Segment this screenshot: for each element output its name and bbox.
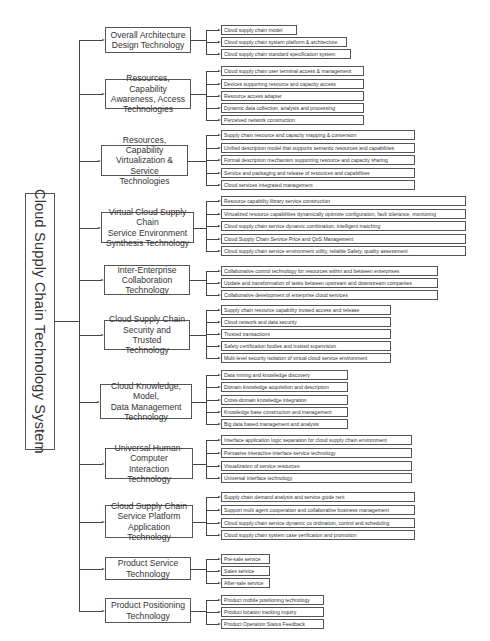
leaf-node: Cloud Supply Chain Service Price and QoS… [221,234,466,244]
category-label-line: Inter-Enterprise [117,265,176,275]
root-title: Cloud Supply Chain Technology System [32,189,48,454]
category-label: Inter-EnterpriseCollaborationTechnology [117,265,176,296]
leaf-node: Safety certification bodies and trusted … [221,341,391,351]
category-label: Cloud Knowledge, Model,Data ManagementTe… [104,381,188,422]
leaf-node: Virtualized resource capabilities dynami… [221,209,466,219]
category-label-line: Resources, Capability [105,135,184,156]
category-label: Cloud Supply ChainSecurity and TrustedTe… [108,314,186,355]
category-label-line: Resources, Capability [109,73,187,94]
trunk-branch-connector [80,40,102,41]
leaf-node: Product mobile positioning technology [221,595,324,605]
category-label-line: Overall Architecture [111,30,186,40]
category-label-line: Technologies [105,176,184,186]
leaf-node: After-sale service [221,578,270,588]
leaf-node: Domain knowledge acquisition and descrip… [221,382,348,392]
leaf-node: Collaborative development of enterprise … [221,290,438,300]
category-label-line: Security and Trusted [108,325,186,346]
category-bracket-connector [188,161,206,162]
trunk-branch-connector [80,335,101,336]
category-label-line: Universal Human- [109,443,189,453]
category-label-line: Data Management [104,402,188,412]
leaf-node: Cross-domain knowledge integration [221,395,348,405]
category-bracket-connector [191,40,206,41]
category-label: Product ServiceTechnology [118,558,179,579]
category-label-line: Cloud Supply Chain [108,314,186,324]
category-bracket-connector [192,402,206,403]
category-label-line: Technology [111,611,185,621]
leaf-node: Supply chain resource and capacity mappi… [221,130,415,140]
category-label-line: Product Service [118,558,179,568]
leaf-node: Cloud supply chain model [221,25,297,35]
root-connector [55,321,79,322]
leaf-node: Support multi agent cooperation and coll… [221,505,415,515]
category-label-line: Cloud Supply Chain [109,501,189,511]
leaf-node: Trusted transactions [221,329,391,339]
leaf-node: Formal description mechanism supporting … [221,155,415,165]
category-label: Universal Human-Computer InteractionTech… [109,443,189,484]
leaf-node: Sales service [221,566,270,576]
category-bracket-connector [193,464,206,465]
category-node: Virtual Cloud Supply ChainService Enviro… [101,212,194,243]
leaf-node: Update and transformation of tasks betwe… [221,278,438,288]
trunk-branch-connector [80,280,101,281]
category-label-line: Technology [108,345,186,355]
category-label-line: Design Technology [111,40,186,50]
category-node: Resources, CapabilityVirtualization & Se… [101,145,188,176]
leaf-node: Cloud supply chain service dynamic combi… [221,221,466,231]
category-label-line: Technology [109,474,189,484]
category-label-line: Virtualization & Service [105,155,184,176]
category-label: Cloud Supply ChainService PlatformApplic… [109,501,189,542]
category-node: Product ServiceTechnology [105,557,191,580]
leaf-node: Interface application logic separation f… [221,435,412,445]
leaf-node: Devices supporting resource and capacity… [221,79,364,89]
leaf-node: Unified description model that supports … [221,143,415,153]
category-label: Product PositioningTechnology [111,600,185,621]
bracket-line [206,497,207,536]
trunk-branch-connector [80,464,102,465]
category-label-line: Synthesis Technology [105,238,190,248]
category-node: Overall ArchitectureDesign Technology [105,27,191,53]
category-bracket-connector [190,280,206,281]
category-label-line: Technology [104,412,188,422]
trunk-branch-connector [80,161,98,162]
category-label: Resources, CapabilityVirtualization & Se… [105,135,184,186]
category-node: Product PositioningTechnology [105,598,191,623]
category-node: Cloud Supply ChainService PlatformApplic… [105,505,193,538]
trunk-branch-connector [80,94,102,95]
leaf-node: Cloud supply chain standard specificatio… [221,49,351,59]
leaf-node: Pre-sale service [221,554,270,564]
leaf-node: Cloud network and data security [221,317,391,327]
category-label: Resources, CapabilityAwareness, AccessTe… [109,73,187,114]
leaf-node: Supply chain demand analysis and service… [221,492,415,502]
category-label-line: Service Platform [109,511,189,521]
category-label-line: Cloud Knowledge, Model, [104,381,188,402]
leaf-node: Knowledge base construction and manageme… [221,407,348,417]
category-label-line: Virtual Cloud Supply Chain [105,207,190,228]
category-node: Universal Human-Computer InteractionTech… [105,448,193,479]
category-node: Inter-EnterpriseCollaborationTechnology [104,265,190,295]
leaf-node: Cloud supply chain system case verificat… [221,530,415,540]
leaf-node: Collaborative control technology for res… [221,266,438,276]
leaf-node: Universal interface technology [221,473,412,483]
trunk-branch-connector [80,228,98,229]
trunk-branch-connector [80,522,102,523]
category-label-line: Application Technology [109,522,189,543]
trunk-branch-connector [80,611,102,612]
category-bracket-connector [194,228,206,229]
leaf-node: Service and packaging and release of res… [221,168,415,178]
category-bracket-connector [191,569,206,570]
leaf-node: Resource capability library service cons… [221,196,466,206]
category-bracket-connector [191,94,206,95]
leaf-node: Big data based management and analysis [221,419,348,429]
category-node: Resources, CapabilityAwareness, AccessTe… [105,79,191,109]
leaf-node: Product Operation Status Feedback [221,619,324,629]
leaf-node: Dynamic data collection, analysis and pr… [221,103,364,113]
leaf-node: Cloud supply chain system platform & arc… [221,37,347,47]
category-label: Virtual Cloud Supply ChainService Enviro… [105,207,190,248]
leaf-node: Perceived network construction [221,115,364,125]
leaf-node: Cloud supply chain user terminal access … [221,66,364,76]
category-bracket-connector [190,335,206,336]
leaf-node: Supply chain resource capability trusted… [221,305,391,315]
category-label-line: Technology [117,285,176,295]
trunk-branch-connector [80,569,102,570]
